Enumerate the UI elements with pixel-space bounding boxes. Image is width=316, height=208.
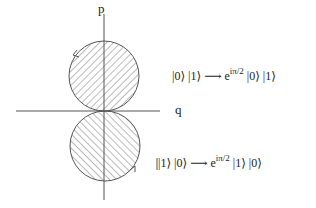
q-label: q: [175, 103, 182, 116]
phase-space-diagram: [0, 0, 316, 208]
lower-circle: [70, 111, 140, 181]
equation-1: |0⟩ |1⟩ ⟶ eiπ/2 |0⟩ |1⟩: [172, 67, 276, 82]
equation-2: |1⟩ |0⟩ ⟶ eiπ/2 |1⟩ |0⟩: [158, 154, 262, 169]
p-label: p: [98, 2, 105, 15]
